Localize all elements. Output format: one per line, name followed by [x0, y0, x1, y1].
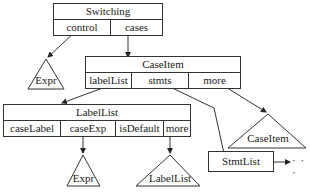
field-more-labellist: more: [163, 121, 190, 136]
expr-label-top: Expr: [28, 74, 64, 86]
field-stmts: stmts: [131, 73, 188, 88]
field-more: more: [188, 73, 240, 88]
stmtlist-node: StmtList: [208, 151, 274, 172]
switching-title: Switching: [54, 4, 162, 20]
field-caseexp: caseExp: [60, 121, 115, 136]
caseitem-title: CaseItem: [86, 57, 240, 73]
switching-node: Switching control cases: [53, 3, 163, 36]
field-caselabel: caseLabel: [4, 121, 60, 136]
caseitem-node: CaseItem labelList stmts more: [85, 56, 241, 89]
caseitem-sub-label: CaseItem: [238, 132, 298, 144]
labellist-node: LabelList caseLabel caseExp isDefault mo…: [3, 104, 191, 137]
labellist-title: LabelList: [4, 105, 190, 121]
field-cases: cases: [110, 20, 162, 35]
field-control: control: [54, 20, 110, 35]
field-labellist: labelList: [86, 73, 131, 88]
continuation-dots: · · ·: [292, 154, 310, 178]
labellist-sub-label: LabelList: [140, 172, 200, 184]
expr-label-bottom: Expr: [67, 172, 100, 184]
field-isdefault: isDefault: [115, 121, 163, 136]
edge-more-caseitem: [224, 86, 266, 112]
